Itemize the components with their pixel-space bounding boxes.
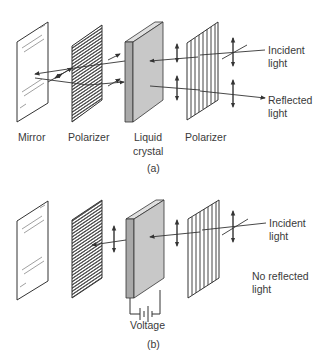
liquid-crystal-icon [126, 200, 164, 298]
panel-b-caption: (b) [147, 338, 160, 351]
reflected-light-label-line1: Reflected [268, 94, 312, 107]
mirror-label: Mirror [18, 131, 45, 144]
panel-a-caption: (a) [147, 162, 160, 175]
liquid-crystal-icon [125, 22, 163, 122]
incident-light-label-line1: Incident [269, 217, 306, 230]
polarizer-right-label: Polarizer [185, 131, 226, 144]
incident-ray [92, 211, 266, 252]
polarizer-horizontal-icon [72, 200, 102, 298]
incident-light-label-line2: light [269, 230, 288, 243]
polarizer-vertical-icon [188, 200, 219, 298]
mirror-icon [17, 22, 48, 122]
no-reflected-light-label-line1: No reflected [252, 270, 309, 283]
reflected-light-label-line2: light [268, 107, 287, 120]
polarizer-left-label: Polarizer [68, 131, 109, 144]
mirror-icon [17, 201, 48, 300]
incident-light-label-line2: light [268, 57, 287, 70]
panel-b-graphics [17, 200, 266, 322]
liquid-crystal-label-line1: Liquid [134, 131, 162, 144]
lcd-diagram: Mirror Polarizer Liquid crystal Polarize… [0, 0, 322, 353]
panel-a-graphics [17, 22, 265, 122]
incident-light-label-line1: Incident [268, 44, 305, 57]
no-reflected-light-label-line2: light [252, 283, 271, 296]
voltage-label: Voltage [130, 319, 165, 332]
polarizer-horizontal-icon [72, 25, 102, 122]
liquid-crystal-label-line2: crystal [133, 145, 163, 158]
polarizer-vertical-icon [187, 22, 218, 120]
